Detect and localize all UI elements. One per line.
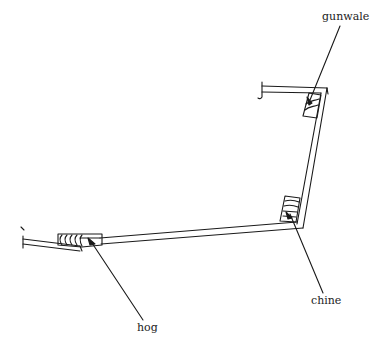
deck-plank [258, 82, 328, 99]
bottom-plank [80, 222, 303, 244]
left-bottom-plank [21, 227, 82, 251]
chine-block [280, 196, 300, 222]
side-plank [297, 88, 327, 228]
gunwale-label: gunwale [322, 10, 369, 23]
chine-label: chine [311, 294, 341, 307]
chine-leader-line [290, 214, 323, 293]
hog-label: hog [137, 321, 158, 334]
hog-block [58, 234, 102, 247]
gunwale-leader-line [310, 26, 340, 100]
hog-leader-line [92, 243, 143, 320]
